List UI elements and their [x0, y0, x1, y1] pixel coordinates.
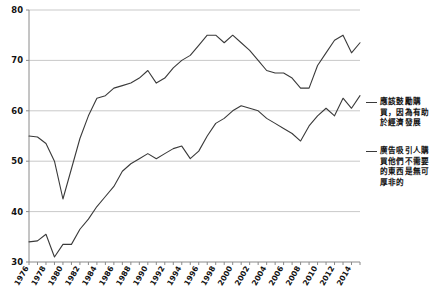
x-tick-label: 1976 [12, 265, 30, 288]
legend-line-swatch-1 [366, 102, 377, 103]
legend-entry-encourage-buying: 應該鼓勵購買，因為有助於經濟發展 [366, 97, 430, 129]
grid-lines [29, 10, 360, 212]
y-tick-label: 40 [11, 207, 23, 217]
series-line-1 [29, 35, 360, 199]
chart-figure: 304050607080 197619781980198219841986198… [0, 0, 430, 297]
x-tick-label: 1978 [29, 265, 47, 288]
y-tick-label: 70 [11, 55, 23, 65]
y-tick-labels: 304050607080 [11, 5, 29, 267]
legend-line-swatch-2 [366, 151, 377, 152]
x-tick-label: 2000 [216, 265, 234, 288]
x-tick-label: 2006 [267, 265, 285, 288]
x-tick-label: 1986 [97, 265, 115, 288]
x-tick-label: 1992 [148, 265, 166, 288]
x-tick-label: 2008 [284, 265, 302, 288]
y-tick-label: 50 [11, 156, 23, 166]
series-line-2 [29, 96, 360, 257]
axis-lines [29, 10, 360, 262]
legend-label-2: 廣告吸引人購買他們不需要的東西是無可厚非的 [380, 146, 430, 188]
x-tick-label: 1982 [63, 265, 81, 288]
x-tick-label: 1998 [199, 265, 217, 288]
x-tick-label: 2002 [233, 265, 251, 288]
y-tick-label: 80 [11, 5, 23, 15]
x-tick-label: 2014 [335, 265, 353, 288]
x-tick-label: 1988 [114, 265, 132, 288]
x-tick-label: 1984 [80, 265, 98, 288]
x-tick-label: 1994 [165, 265, 183, 288]
x-tick-label: 2004 [250, 265, 268, 288]
x-tick-label: 2010 [301, 265, 319, 288]
x-tick-label: 1980 [46, 265, 64, 288]
series-paths [29, 35, 360, 257]
legend-label-1: 應該鼓勵購買，因為有助於經濟發展 [380, 97, 430, 129]
x-tick-label: 1996 [182, 265, 200, 288]
x-tick-labels: 1976197819801982198419861988199019921994… [12, 265, 353, 288]
x-tick-label: 2012 [318, 265, 336, 288]
y-tick-label: 60 [11, 106, 23, 116]
legend-entry-advertising-ok: 廣告吸引人購買他們不需要的東西是無可厚非的 [366, 146, 430, 188]
x-tick-label: 1990 [131, 265, 149, 288]
